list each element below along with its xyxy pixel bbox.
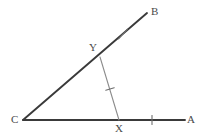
tick-mark-yb-icon bbox=[119, 29, 128, 39]
point-label-x: X bbox=[115, 123, 123, 134]
geometry-figure: B Y A C X bbox=[0, 0, 206, 138]
point-label-a: A bbox=[187, 114, 195, 125]
point-label-b: B bbox=[151, 6, 158, 17]
ray-cb bbox=[23, 13, 147, 120]
point-label-y: Y bbox=[89, 42, 97, 53]
point-label-c: C bbox=[11, 114, 18, 125]
geometry-canvas bbox=[0, 0, 206, 138]
segment-yx bbox=[100, 57, 119, 120]
